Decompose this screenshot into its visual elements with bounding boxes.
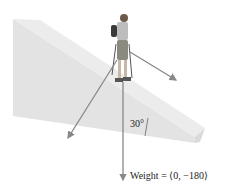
diagram: 30° Weight = ⟨0, −180⟩ — [0, 0, 230, 184]
angle-label: 30° — [130, 118, 144, 129]
backpack-icon — [111, 25, 117, 37]
slope-diagram — [0, 0, 230, 184]
weight-label: Weight = ⟨0, −180⟩ — [130, 170, 208, 181]
parallel-component-arrow — [130, 52, 176, 80]
